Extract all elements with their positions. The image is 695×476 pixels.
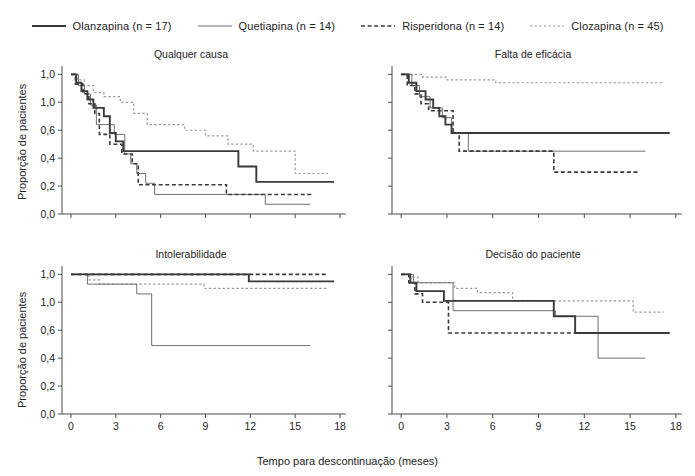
y-tick-label: 0,0 bbox=[40, 408, 55, 420]
x-tick-label: 6 bbox=[490, 420, 496, 432]
legend-label-clozapina: Clozapina (n = 45) bbox=[571, 20, 663, 32]
panel-intolerabilidade: Intolerabilidade 1,01,00,60,40,20,003691… bbox=[22, 248, 360, 448]
curve-quetiapina bbox=[71, 74, 310, 204]
y-tick-label: 0,6 bbox=[40, 324, 55, 336]
chart-svg-decisao-do-paciente: 0369121518 bbox=[378, 262, 688, 436]
chart-svg-qualquer-causa: 1,01,00,60,40,20,0 bbox=[22, 62, 352, 222]
panel-title-falta-de-eficacia: Falta de eficácia bbox=[378, 48, 688, 60]
y-tick-label: 0,2 bbox=[40, 380, 55, 392]
x-tick-label: 9 bbox=[536, 420, 542, 432]
y-tick-label: 0,2 bbox=[40, 180, 55, 192]
panel-title-qualquer-causa: Qualquer causa bbox=[22, 48, 360, 60]
curve-quetiapina bbox=[401, 74, 645, 151]
y-axis-title-top: Proporção de pacientes bbox=[16, 84, 28, 200]
curve-olanzapina bbox=[71, 74, 334, 182]
curve-olanzapina bbox=[71, 274, 334, 281]
legend-swatch-olanzapina bbox=[32, 21, 66, 31]
panel-decisao-do-paciente: Decisão do paciente 0369121518 bbox=[378, 248, 688, 448]
panel-title-decisao-do-paciente: Decisão do paciente bbox=[378, 248, 688, 260]
y-tick-label: 1,0 bbox=[40, 68, 55, 80]
plot-area-decisao-do-paciente: 0369121518 bbox=[378, 262, 688, 436]
y-tick-label: 1,0 bbox=[40, 268, 55, 280]
x-tick-label: 9 bbox=[203, 420, 209, 432]
panel-falta-de-eficacia: Falta de eficácia bbox=[378, 48, 688, 238]
curve-risperidona bbox=[71, 74, 313, 194]
x-tick-label: 15 bbox=[289, 420, 301, 432]
x-tick-label: 6 bbox=[158, 420, 164, 432]
x-tick-label: 0 bbox=[398, 420, 404, 432]
x-tick-label: 3 bbox=[113, 420, 119, 432]
legend-swatch-risperidona bbox=[361, 21, 395, 31]
y-tick-label: 0,0 bbox=[40, 208, 55, 220]
plot-area-intolerabilidade: 1,01,00,60,40,20,00369121518 bbox=[22, 262, 352, 436]
y-tick-label: 1,0 bbox=[40, 296, 55, 308]
chart-svg-falta-de-eficacia bbox=[378, 62, 688, 222]
panel-title-intolerabilidade: Intolerabilidade bbox=[22, 248, 360, 260]
plot-area-falta-de-eficacia bbox=[378, 62, 688, 222]
chart-svg-intolerabilidade: 1,01,00,60,40,20,00369121518 bbox=[22, 262, 352, 436]
y-tick-label: 1,0 bbox=[40, 96, 55, 108]
legend-label-quetiapina: Quetiapina (n = 14) bbox=[239, 20, 336, 32]
x-axis-title: Tempo para descontinuação (meses) bbox=[0, 455, 695, 467]
legend-entry-clozapina: Clozapina (n = 45) bbox=[530, 20, 663, 32]
x-tick-label: 0 bbox=[68, 420, 74, 432]
panel-qualquer-causa: Qualquer causa 1,01,00,60,40,20,0 bbox=[22, 48, 360, 238]
y-axis-title-bottom: Proporção de pacientes bbox=[16, 292, 28, 408]
y-tick-label: 0,4 bbox=[40, 152, 55, 164]
chart-legend: Olanzapina (n = 17)Quetiapina (n = 14)Ri… bbox=[0, 14, 695, 38]
x-tick-label: 3 bbox=[444, 420, 450, 432]
x-tick-label: 12 bbox=[578, 420, 590, 432]
curve-clozapina bbox=[401, 74, 664, 82]
legend-entry-olanzapina: Olanzapina (n = 17) bbox=[32, 20, 172, 32]
legend-entry-quetiapina: Quetiapina (n = 14) bbox=[198, 20, 336, 32]
y-tick-label: 0,6 bbox=[40, 124, 55, 136]
x-tick-label: 18 bbox=[670, 420, 682, 432]
x-tick-label: 15 bbox=[624, 420, 636, 432]
x-tick-label: 12 bbox=[244, 420, 256, 432]
legend-entry-risperidona: Risperidona (n = 14) bbox=[361, 20, 504, 32]
curve-clozapina bbox=[401, 274, 664, 312]
y-tick-label: 0,4 bbox=[40, 352, 55, 364]
legend-swatch-quetiapina bbox=[198, 21, 232, 31]
legend-label-risperidona: Risperidona (n = 14) bbox=[402, 20, 504, 32]
legend-label-olanzapina: Olanzapina (n = 17) bbox=[73, 20, 172, 32]
kaplan-meier-figure: Olanzapina (n = 17)Quetiapina (n = 14)Ri… bbox=[0, 0, 695, 476]
curve-quetiapina bbox=[401, 274, 645, 358]
plot-area-qualquer-causa: 1,01,00,60,40,20,0 bbox=[22, 62, 352, 222]
curve-risperidona bbox=[401, 74, 639, 172]
x-tick-label: 18 bbox=[334, 420, 346, 432]
curve-quetiapina bbox=[71, 274, 310, 345]
legend-swatch-clozapina bbox=[530, 21, 564, 31]
